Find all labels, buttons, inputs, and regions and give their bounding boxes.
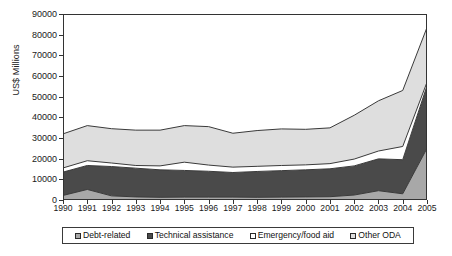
x-axis-tick-label: 2004 bbox=[393, 204, 412, 213]
x-axis-tick-mark bbox=[257, 200, 258, 204]
x-axis-tick-mark bbox=[136, 200, 137, 204]
x-axis-tick-label: 1998 bbox=[248, 204, 267, 213]
x-axis-tick-mark bbox=[160, 200, 161, 204]
legend-swatch-emergency-food-aid bbox=[250, 233, 256, 239]
x-axis-tick-label: 1993 bbox=[126, 204, 145, 213]
x-axis-tick-mark bbox=[209, 200, 210, 204]
legend-item-technical-assistance[interactable]: Technical assistance bbox=[147, 231, 234, 240]
legend-item-label: Emergency/food aid bbox=[258, 231, 334, 240]
y-axis-tick-label: 20000 bbox=[32, 154, 57, 163]
plot-area: 0100002000030000400005000060000700008000… bbox=[63, 14, 427, 200]
y-axis-tick-label: 30000 bbox=[32, 134, 57, 143]
legend-item-emergency-food-aid[interactable]: Emergency/food aid bbox=[250, 231, 334, 240]
x-axis-tick-mark bbox=[233, 200, 234, 204]
x-axis-tick-label: 1996 bbox=[199, 204, 218, 213]
x-axis-tick-mark bbox=[427, 200, 428, 204]
y-axis-tick-label: 40000 bbox=[32, 113, 57, 122]
y-axis-tick-mark bbox=[59, 14, 63, 15]
stacked-area-chart: US$ Millions 010000200003000040000500006… bbox=[0, 0, 452, 256]
legend-swatch-technical-assistance bbox=[147, 233, 153, 239]
x-axis-tick-label: 1999 bbox=[272, 204, 291, 213]
y-axis-tick-mark bbox=[59, 55, 63, 56]
y-axis-tick-label: 80000 bbox=[32, 30, 57, 39]
y-axis-tick-label: 70000 bbox=[32, 51, 57, 60]
y-axis-tick-mark bbox=[59, 97, 63, 98]
area-series-container bbox=[63, 14, 427, 200]
x-axis-tick-label: 1991 bbox=[78, 204, 97, 213]
y-axis-tick-label: 10000 bbox=[32, 175, 57, 184]
x-axis-tick-label: 1990 bbox=[53, 204, 72, 213]
y-axis-tick-label: 60000 bbox=[32, 72, 57, 81]
y-axis-title: US$ Millions bbox=[11, 15, 31, 125]
x-axis-tick-label: 2002 bbox=[345, 204, 364, 213]
x-axis-tick-mark bbox=[354, 200, 355, 204]
x-axis-tick-label: 1995 bbox=[175, 204, 194, 213]
x-axis-tick-label: 2003 bbox=[369, 204, 388, 213]
y-axis-tick-label: 50000 bbox=[32, 92, 57, 101]
legend-item-other-oda[interactable]: Other ODA bbox=[350, 231, 401, 240]
legend-item-debt-related[interactable]: Debt-related bbox=[75, 231, 130, 240]
legend-swatch-other-oda bbox=[350, 233, 356, 239]
x-axis-tick-mark bbox=[306, 200, 307, 204]
x-axis-tick-mark bbox=[184, 200, 185, 204]
y-axis-tick-mark bbox=[59, 138, 63, 139]
x-axis-tick-mark bbox=[403, 200, 404, 204]
x-axis-tick-mark bbox=[112, 200, 113, 204]
x-axis-tick-mark bbox=[330, 200, 331, 204]
x-axis-tick-label: 1997 bbox=[223, 204, 242, 213]
chart-legend: Debt-relatedTechnical assistanceEmergenc… bbox=[62, 227, 414, 244]
legend-item-label: Technical assistance bbox=[155, 231, 234, 240]
legend-swatch-debt-related bbox=[75, 233, 81, 239]
x-axis-tick-mark bbox=[378, 200, 379, 204]
y-axis-tick-mark bbox=[59, 35, 63, 36]
x-axis-tick-mark bbox=[87, 200, 88, 204]
y-axis-tick-mark bbox=[59, 159, 63, 160]
x-axis-tick-mark bbox=[63, 200, 64, 204]
x-axis-tick-label: 2001 bbox=[320, 204, 339, 213]
x-axis-tick-label: 2000 bbox=[296, 204, 315, 213]
y-axis-tick-mark bbox=[59, 76, 63, 77]
x-axis-tick-label: 1994 bbox=[151, 204, 170, 213]
y-axis-tick-mark bbox=[59, 117, 63, 118]
y-axis-tick-mark bbox=[59, 179, 63, 180]
x-axis-tick-mark bbox=[281, 200, 282, 204]
legend-item-label: Debt-related bbox=[83, 231, 130, 240]
y-axis-tick-label: 90000 bbox=[32, 10, 57, 19]
x-axis-tick-label: 1992 bbox=[102, 204, 121, 213]
x-axis-tick-label: 2005 bbox=[417, 204, 436, 213]
legend-item-label: Other ODA bbox=[358, 231, 401, 240]
